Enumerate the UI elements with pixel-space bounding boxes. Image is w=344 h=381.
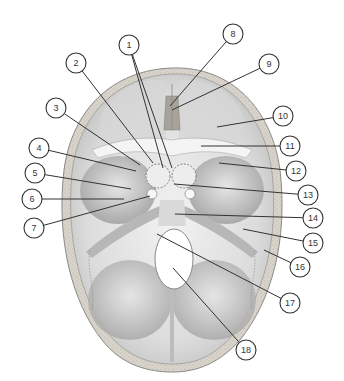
callout-number: 13: [303, 190, 313, 200]
callout-number: 3: [53, 103, 58, 113]
callout-number: 16: [295, 262, 305, 272]
callout-number: 8: [230, 29, 235, 39]
callout-number: 2: [73, 58, 78, 68]
callout-number: 5: [32, 168, 37, 178]
foramen-magnum: [155, 229, 193, 289]
callout-number: 15: [308, 238, 318, 248]
callout-number: 4: [36, 143, 41, 153]
callout-number: 14: [308, 213, 318, 223]
callout-number: 7: [31, 223, 36, 233]
callout-number: 6: [29, 194, 34, 204]
callout-number: 18: [241, 345, 251, 355]
clivus: [158, 200, 186, 226]
skull-base-diagram: 123456789101112131415161718: [0, 0, 344, 381]
callout-number: 12: [291, 166, 301, 176]
callout-number: 9: [266, 59, 271, 69]
callout-number: 17: [285, 298, 295, 308]
callout-number: 1: [126, 40, 131, 50]
callout-number: 10: [278, 111, 288, 121]
callout-number: 11: [285, 141, 294, 151]
